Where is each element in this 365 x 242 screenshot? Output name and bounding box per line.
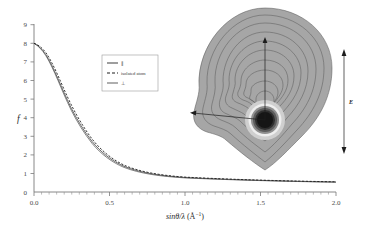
x-ticks: 0.0 0.5 1.0 1.5 2.0 (30, 192, 341, 207)
x-tick-label: 2.0 (332, 199, 341, 207)
y-ticks: 9 8 7 6 5 4 3 2 1 0 (24, 21, 35, 196)
x-axis-title-sin: sin (166, 212, 175, 221)
x-tick-label: 0.0 (30, 199, 39, 207)
efield-arrowhead-down (342, 147, 347, 154)
contour-axis-horizontal-arrowhead (190, 111, 196, 116)
y-tick-label: 5 (24, 96, 28, 104)
y-tick-label: 3 (24, 133, 28, 141)
x-tick-label: 1.0 (181, 199, 190, 207)
y-axis-title: f (17, 114, 21, 124)
legend-label-isolated-atom: isolated atom (121, 71, 146, 76)
x-axis-title: sinθ/λ (Å−1) (166, 211, 204, 221)
y-tick-label: 0 (24, 189, 28, 197)
y-tick-label: 7 (24, 58, 28, 66)
electron-density-contour-map: E (190, 8, 353, 170)
x-tick-label: 0.5 (105, 199, 114, 207)
electric-field-indicator: E (342, 49, 353, 154)
chart-canvas: E 9 8 7 6 5 4 3 (0, 0, 365, 242)
chart-legend: ∥ isolated atom ⊥ (102, 55, 158, 91)
efield-label: E (348, 99, 353, 105)
form-factor-figure: E 9 8 7 6 5 4 3 (0, 0, 365, 242)
y-tick-label: 6 (24, 77, 28, 85)
legend-label-perpendicular: ⊥ (121, 81, 125, 86)
y-tick-label: 8 (24, 40, 28, 48)
y-tick-label: 2 (24, 151, 28, 159)
x-axis-title-unit: (Å (185, 212, 196, 221)
y-tick-label: 1 (24, 170, 28, 178)
y-tick-label: 9 (24, 21, 28, 29)
x-axis-title-close: ) (201, 212, 204, 221)
x-tick-label: 1.5 (256, 199, 265, 207)
y-tick-label: 4 (24, 114, 28, 122)
efield-arrowhead-up (342, 49, 347, 56)
